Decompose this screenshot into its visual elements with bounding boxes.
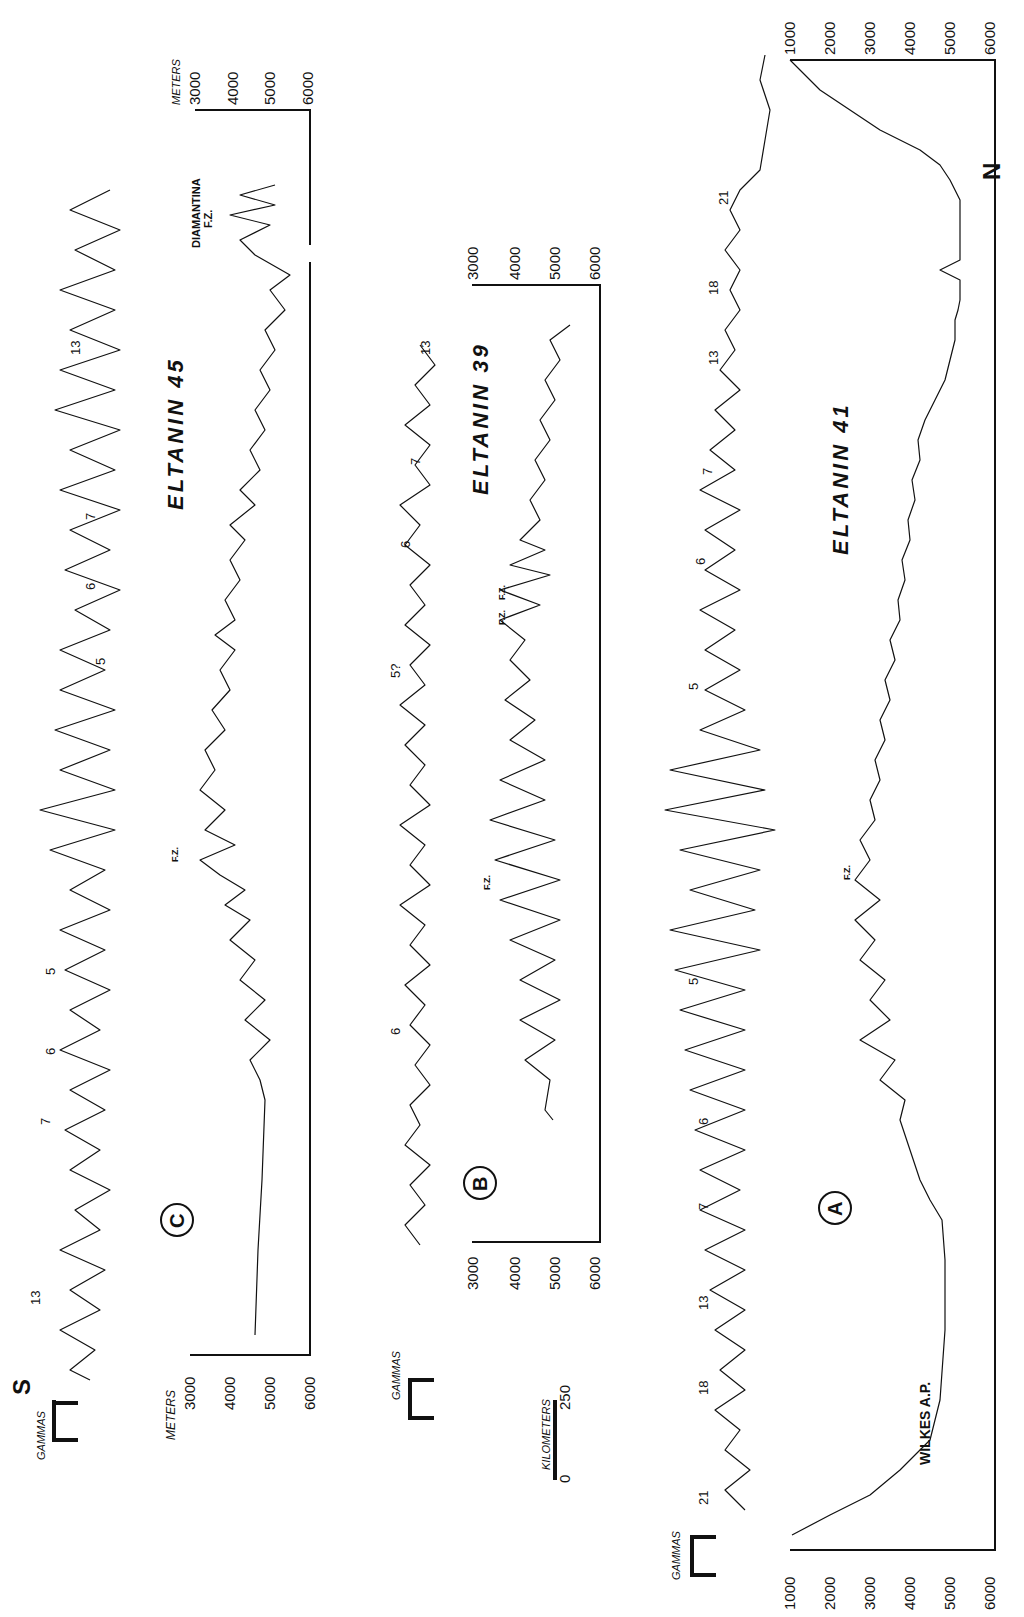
depth-tick: 5000	[941, 1577, 958, 1610]
annotation-diamantina: DIAMANTINA	[190, 178, 202, 248]
kilometers-label: KILOMETERS	[540, 1398, 552, 1470]
panel-eltanin-41: GAMMAS 21 18 13 7 6 5 5 6 7 13 18 21 A E…	[665, 22, 998, 1610]
anomaly-label: 6	[388, 1028, 403, 1035]
depth-tick: 3000	[861, 1577, 878, 1610]
panel-letter: B	[469, 1177, 491, 1191]
depth-tick: 5000	[546, 1257, 563, 1290]
scale-max: 250	[556, 1385, 573, 1410]
anomaly-label: 21	[716, 191, 731, 205]
annotation-fz: F.Z.	[202, 210, 214, 228]
anomaly-label: 6	[43, 1048, 58, 1055]
depth-tick: 3000	[186, 72, 203, 105]
anomaly-label: 5	[43, 968, 58, 975]
depth-tick: 3000	[861, 22, 878, 55]
gammas-scale-bar	[52, 1400, 56, 1442]
anomaly-label: 5	[686, 683, 701, 690]
annotation-fz: F.Z.	[842, 865, 852, 880]
depth-tick: 2000	[821, 1577, 838, 1610]
depth-tick: 4000	[221, 1377, 238, 1410]
depth-tick: 6000	[301, 1377, 318, 1410]
anomaly-label: 21	[696, 1491, 711, 1505]
annotation-fz: F.Z.	[170, 847, 180, 862]
depth-tick: 4000	[506, 1257, 523, 1290]
scale-min: 0	[556, 1475, 573, 1483]
depth-tick: 3000	[464, 247, 481, 280]
anomaly-label: 5	[93, 658, 108, 665]
annotation-fz: F.Z.	[497, 610, 507, 625]
depth-tick: 5000	[261, 72, 278, 105]
depth-tick: 5000	[261, 1377, 278, 1410]
anomaly-label: 7	[408, 458, 423, 465]
south-label: S	[8, 1379, 35, 1395]
panel-letter: A	[824, 1202, 846, 1216]
depth-tick: 3000	[181, 1377, 198, 1410]
depth-tick: 6000	[299, 72, 316, 105]
depth-tick: 5000	[941, 22, 958, 55]
depth-tick: 6000	[586, 247, 603, 280]
depth-axis-a	[790, 60, 995, 1550]
panel-title: ELTANIN 39	[468, 342, 493, 495]
anomaly-label: 7	[38, 1118, 53, 1125]
anomaly-label: 7	[700, 468, 715, 475]
depth-tick: 1000	[781, 1577, 798, 1610]
meters-label: METERS	[170, 59, 182, 106]
depth-tick: 6000	[981, 1577, 998, 1610]
anomaly-label: 13	[68, 341, 83, 355]
depth-tick: 3000	[464, 1257, 481, 1290]
anomaly-label: 7	[696, 1203, 711, 1210]
anomaly-label: 18	[706, 281, 721, 295]
magnetic-trace-b	[400, 345, 435, 1245]
depth-tick: 1000	[781, 22, 798, 55]
panel-letter: C	[166, 1214, 188, 1228]
bathymetry-trace-c	[200, 185, 290, 1335]
depth-tick: 6000	[586, 1257, 603, 1290]
anomaly-label: 13	[706, 351, 721, 365]
annotation-wilkes: WILKES A.P.	[917, 1382, 933, 1465]
anomaly-label: 18	[696, 1381, 711, 1395]
panel-eltanin-45: GAMMAS 13 7 6 5 5 6 7 13 C ELTANIN 45 ME…	[28, 59, 318, 1461]
kilometer-scale-bar	[553, 1400, 557, 1480]
anomaly-label: 6	[83, 583, 98, 590]
annotation-fz: F.Z.	[482, 875, 492, 890]
gammas-label: GAMMAS	[35, 1410, 47, 1460]
panel-title: ELTANIN 45	[163, 357, 188, 510]
panel-title: ELTANIN 41	[828, 402, 853, 555]
anomaly-label: 6	[693, 558, 708, 565]
bathymetry-trace-a	[790, 60, 960, 1535]
magnetic-trace-c	[40, 190, 120, 1380]
depth-tick: 2000	[821, 22, 838, 55]
anomaly-label: 7	[83, 513, 98, 520]
anomaly-label: 13	[418, 341, 433, 355]
panel-eltanin-39: GAMMAS 6 5? 6 7 13 B ELTANIN 39 3000 400…	[388, 247, 603, 1483]
depth-tick: 4000	[901, 22, 918, 55]
depth-axis-c	[190, 262, 310, 1355]
gammas-label: GAMMAS	[670, 1530, 682, 1580]
depth-tick: 6000	[981, 22, 998, 55]
anomaly-label: 5	[686, 978, 701, 985]
figure-canvas: S N GAMMAS 13 7 6 5 5 6 7 13 C ELTANIN 4…	[0, 0, 1024, 1617]
anomaly-label: 5?	[388, 664, 403, 678]
depth-tick: 4000	[224, 72, 241, 105]
depth-tick: 4000	[901, 1577, 918, 1610]
meters-label: METERS	[164, 1390, 178, 1440]
anomaly-label: 6	[696, 1118, 711, 1125]
depth-tick: 4000	[506, 247, 523, 280]
magnetic-trace-a	[665, 55, 775, 1510]
anomaly-label: 13	[28, 1291, 43, 1305]
bathymetry-trace-b	[490, 325, 570, 1120]
anomaly-label: 6	[398, 541, 413, 548]
depth-tick: 5000	[546, 247, 563, 280]
anomaly-label: 13	[696, 1296, 711, 1310]
annotation-fz: F.Z.	[497, 585, 507, 600]
north-label: N	[978, 163, 1005, 180]
gammas-label: GAMMAS	[390, 1350, 402, 1400]
